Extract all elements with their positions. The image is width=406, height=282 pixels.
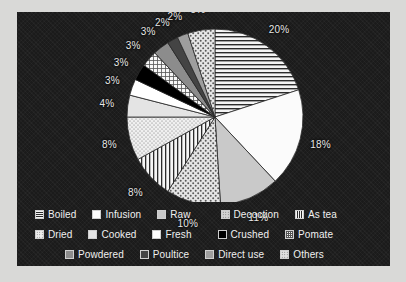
legend-swatch-icon: [140, 250, 149, 259]
legend-item[interactable]: Fresh: [152, 229, 191, 240]
legend-swatch-icon: [285, 230, 294, 239]
legend-item[interactable]: Decoction: [221, 209, 279, 220]
legend-label: Boiled: [48, 209, 76, 220]
legend-item[interactable]: Powdered: [65, 249, 124, 260]
legend-item[interactable]: Pomate: [285, 229, 333, 240]
legend-label: Powdered: [78, 249, 124, 260]
legend-swatch-icon: [92, 210, 101, 219]
legend-label: Poultice: [153, 249, 189, 260]
pie-slice-percent-label: 4%: [99, 98, 114, 109]
pie-slice-percent-label: 3%: [114, 56, 129, 67]
legend-swatch-icon: [205, 250, 214, 259]
legend-label: Others: [293, 249, 324, 260]
legend-row: BoiledInfusionRawDecoctionAs tea: [17, 204, 390, 224]
legend-swatch-icon: [88, 230, 97, 239]
pie-svg: [17, 12, 390, 202]
legend-label: Infusion: [105, 209, 141, 220]
legend-row: PowderedPoulticeDirect useOthers: [17, 244, 390, 264]
legend-row: DriedCookedFreshCrushedPomate: [17, 224, 390, 244]
pie-slice-percent-label: 8%: [102, 139, 117, 150]
legend-item[interactable]: Cooked: [88, 229, 136, 240]
pie-slice-percent-label: 2%: [167, 12, 182, 21]
legend-swatch-icon: [35, 230, 44, 239]
legend-label: Cooked: [101, 229, 136, 240]
pie-slice-percent-label: 3%: [126, 39, 141, 50]
chart-legend: BoiledInfusionRawDecoctionAs teaDriedCoo…: [17, 202, 390, 266]
legend-label: As tea: [308, 209, 337, 220]
legend-label: Decoction: [234, 209, 279, 220]
legend-label: Raw: [170, 209, 190, 220]
pie-slice-percent-label: 18%: [310, 139, 331, 150]
pie-slice-percent-label: 3%: [105, 75, 120, 86]
legend-label: Dried: [48, 229, 72, 240]
pie-chart: 20%18%11%10%8%8%4%3%3%3%3%2%2%5%: [17, 12, 390, 202]
legend-item[interactable]: As tea: [295, 209, 337, 220]
legend-item[interactable]: Others: [280, 249, 324, 260]
pie-slice-percent-label: 8%: [128, 186, 143, 197]
chart-page: 20%18%11%10%8%8%4%3%3%3%3%2%2%5% BoiledI…: [0, 0, 406, 282]
legend-swatch-icon: [221, 210, 230, 219]
legend-item[interactable]: Crushed: [218, 229, 270, 240]
chart-panel: 20%18%11%10%8%8%4%3%3%3%3%2%2%5% BoiledI…: [17, 12, 390, 266]
legend-item[interactable]: Dried: [35, 229, 72, 240]
pie-slice-percent-label: 3%: [141, 25, 156, 36]
legend-swatch-icon: [218, 230, 227, 239]
pie-slice-percent-label: 5%: [190, 12, 205, 15]
legend-label: Crushed: [231, 229, 270, 240]
legend-swatch-icon: [35, 210, 44, 219]
legend-swatch-icon: [295, 210, 304, 219]
legend-label: Fresh: [165, 229, 191, 240]
legend-swatch-icon: [280, 250, 289, 259]
legend-label: Pomate: [298, 229, 333, 240]
legend-item[interactable]: Poultice: [140, 249, 189, 260]
legend-swatch-icon: [65, 250, 74, 259]
legend-swatch-icon: [152, 230, 161, 239]
pie-slice-percent-label: 20%: [269, 23, 290, 34]
legend-item[interactable]: Direct use: [205, 249, 264, 260]
legend-label: Direct use: [218, 249, 264, 260]
legend-swatch-icon: [157, 210, 166, 219]
pie-slice-group: [127, 29, 303, 202]
legend-item[interactable]: Infusion: [92, 209, 141, 220]
legend-item[interactable]: Raw: [157, 209, 190, 220]
legend-item[interactable]: Boiled: [35, 209, 76, 220]
